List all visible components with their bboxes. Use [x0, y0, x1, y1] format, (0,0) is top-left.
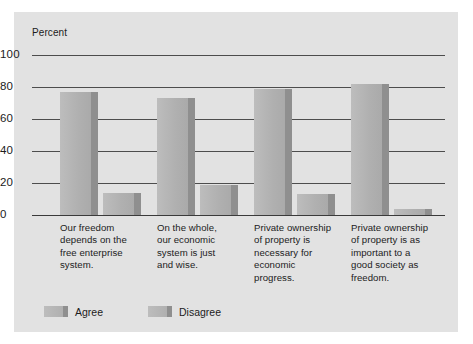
category-label-line: depends on the: [60, 234, 152, 246]
category-label-line: important to a: [351, 247, 447, 259]
category-label-1: Our freedom depends on the free enterpri…: [60, 222, 152, 272]
y-tick-label-20: 20: [0, 176, 28, 188]
category-label-line: free enterprise: [60, 247, 152, 259]
bar-face: [297, 194, 328, 215]
category-label-line: necessary for: [254, 247, 348, 259]
bar-face: [60, 92, 91, 215]
category-label-4: Private ownership of property is as impo…: [351, 222, 447, 284]
bar-face: [103, 193, 134, 215]
category-label-3: Private ownership of property is necessa…: [254, 222, 348, 284]
category-label-line: progress.: [254, 272, 348, 284]
bar-face: [351, 84, 382, 215]
bar-side: [328, 194, 335, 215]
legend-swatch-disagree: [148, 306, 172, 317]
category-label-line: of property is: [254, 234, 348, 246]
bar-agree-1: [60, 92, 98, 215]
plot-area: [32, 55, 445, 215]
bar-side: [188, 98, 195, 215]
bar-disagree-4: [394, 209, 432, 215]
bar-side: [425, 209, 432, 215]
legend-label-disagree: Disagree: [179, 306, 221, 318]
bar-side: [285, 89, 292, 215]
bar-agree-4: [351, 84, 389, 215]
legend-swatch-side: [167, 306, 172, 317]
bar-face: [200, 185, 231, 215]
y-tick-label-60: 60: [0, 112, 28, 124]
y-tick-label-80: 80: [0, 80, 28, 92]
bar-side: [91, 92, 98, 215]
gridline-100: [32, 55, 445, 56]
bar-side: [382, 84, 389, 215]
chart-figure: Percent 100 80 60 40 20 0: [0, 0, 473, 344]
category-label-line: of property is as: [351, 234, 447, 246]
category-label-line: our economic: [157, 234, 249, 246]
y-tick-label-0: 0: [0, 208, 28, 220]
bar-face: [254, 89, 285, 215]
bar-side: [231, 185, 238, 215]
bar-disagree-3: [297, 194, 335, 215]
legend-label-agree: Agree: [75, 306, 103, 318]
y-axis-title: Percent: [32, 27, 67, 38]
legend-swatch-face: [44, 306, 63, 317]
category-label-line: economic: [254, 259, 348, 271]
category-label-line: good society as: [351, 259, 447, 271]
category-label-line: Private ownership: [351, 222, 447, 234]
category-label-line: Private ownership: [254, 222, 348, 234]
y-tick-label-40: 40: [0, 144, 28, 156]
bar-face: [394, 209, 425, 215]
bar-face: [157, 98, 188, 215]
legend-swatch-agree: [44, 306, 68, 317]
category-labels: Our freedom depends on the free enterpri…: [32, 222, 445, 284]
category-label-line: freedom.: [351, 272, 447, 284]
bar-agree-2: [157, 98, 195, 215]
legend-swatch-side: [63, 306, 68, 317]
legend-item-agree: Agree: [44, 302, 103, 318]
x-axis-baseline: [32, 215, 445, 216]
category-label-line: Our freedom: [60, 222, 152, 234]
category-label-line: system is just: [157, 247, 249, 259]
category-label-line: and wise.: [157, 259, 249, 271]
bar-disagree-2: [200, 185, 238, 215]
bar-disagree-1: [103, 193, 141, 215]
category-label-2: On the whole, our economic system is jus…: [157, 222, 249, 272]
category-label-line: On the whole,: [157, 222, 249, 234]
bar-agree-3: [254, 89, 292, 215]
y-tick-label-100: 100: [0, 48, 28, 60]
bar-side: [134, 193, 141, 215]
legend-swatch-face: [148, 306, 167, 317]
legend-item-disagree: Disagree: [148, 302, 221, 318]
category-label-line: system.: [60, 259, 152, 271]
